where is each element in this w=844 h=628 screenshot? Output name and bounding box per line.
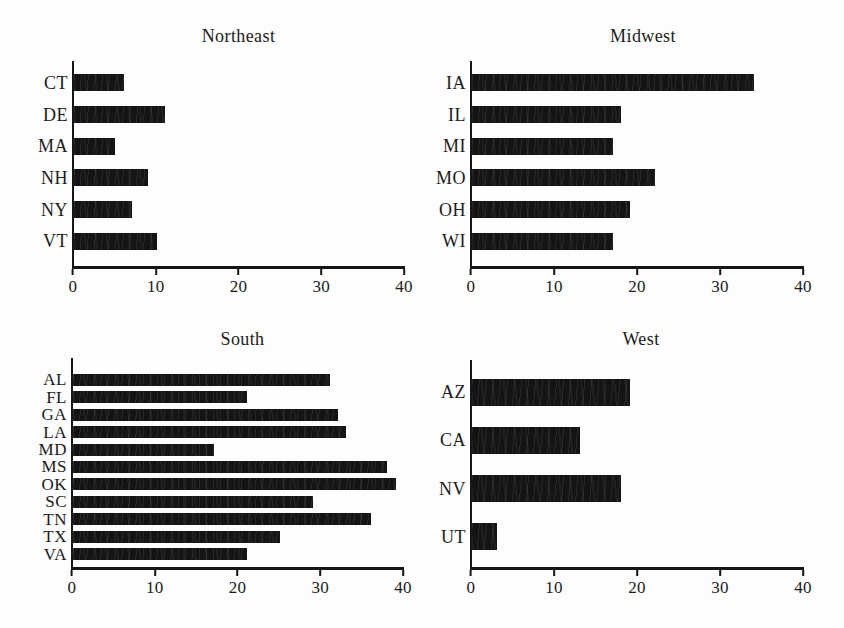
bar-nv — [472, 475, 621, 502]
tick-label: 40 — [794, 278, 812, 295]
bar-row-mi: MI — [472, 130, 804, 162]
category-label-al: AL — [43, 371, 67, 388]
bar-row-tn: TN — [73, 511, 404, 528]
category-label-ct: CT — [44, 74, 68, 92]
tick-mark — [403, 269, 405, 275]
bar-row-az: AZ — [472, 368, 804, 416]
tick-label: 20 — [628, 579, 646, 596]
bar-row-ca: CA — [472, 416, 804, 464]
tick-mark — [72, 269, 74, 275]
bar-ma — [74, 138, 115, 155]
x-tick-0: 0 — [467, 570, 476, 596]
x-tick-30: 30 — [711, 269, 729, 295]
bar-row-tx: TX — [73, 528, 404, 545]
bar-mo — [472, 169, 655, 186]
tick-mark — [802, 570, 804, 576]
tick-mark — [320, 269, 322, 275]
category-label-ia: IA — [446, 74, 466, 92]
bar-row-ga: GA — [73, 406, 404, 423]
tick-label: 30 — [311, 579, 329, 596]
x-tick-10: 10 — [146, 570, 164, 596]
tick-mark — [802, 269, 804, 275]
bar-nh — [74, 169, 148, 186]
category-label-nv: NV — [439, 480, 466, 498]
chart-title-northeast: Northeast — [72, 27, 405, 45]
bar-wi — [472, 233, 613, 250]
bar-row-wi: WI — [472, 225, 804, 257]
tick-label: 30 — [711, 579, 729, 596]
bar-ny — [74, 201, 132, 218]
chart-panel-south: South ALFLGALAMDMSOKSCTNTXVA 010203040 — [0, 0, 844, 628]
tick-mark — [237, 269, 239, 275]
category-label-oh: OH — [439, 201, 466, 219]
bar-ut — [472, 523, 497, 550]
category-label-ga: GA — [41, 406, 67, 423]
tick-mark — [155, 269, 157, 275]
x-tick-40: 40 — [394, 570, 412, 596]
category-label-tn: TN — [43, 511, 67, 528]
category-label-mi: MI — [443, 137, 466, 155]
bar-al — [73, 374, 330, 386]
x-tick-20: 20 — [230, 269, 248, 295]
bar-tx — [73, 531, 280, 543]
plot-area-south: ALFLGALAMDMSOKSCTNTXVA — [71, 358, 404, 570]
tick-mark — [154, 570, 156, 576]
category-label-vt: VT — [43, 232, 68, 250]
bar-row-ny: NY — [74, 194, 405, 226]
bar-row-md: MD — [73, 441, 404, 458]
category-label-sc: SC — [45, 493, 67, 510]
category-label-ma: MA — [38, 137, 68, 155]
bar-row-ia: IA — [472, 67, 804, 99]
category-label-md: MD — [39, 441, 67, 458]
bar-ok — [73, 478, 396, 490]
tick-label: 0 — [69, 278, 78, 295]
tick-mark — [553, 269, 555, 275]
bar-row-fl: FL — [73, 388, 404, 405]
tick-mark — [719, 570, 721, 576]
bar-va — [73, 548, 247, 560]
bar-row-al: AL — [73, 371, 404, 388]
bar-fl — [73, 391, 247, 403]
chart-panel-northeast: Northeast CTDEMANHNYVT 010203040 — [0, 0, 844, 628]
plot-area-midwest: IAILMIMOOHWI — [470, 61, 804, 269]
category-label-de: DE — [43, 106, 68, 124]
tick-label: 10 — [147, 278, 165, 295]
bar-mi — [472, 138, 613, 155]
category-label-ok: OK — [41, 476, 67, 493]
tick-label: 30 — [312, 278, 330, 295]
plot-area-northeast: CTDEMANHNYVT — [72, 61, 405, 269]
bar-row-ok: OK — [73, 476, 404, 493]
category-label-az: AZ — [441, 383, 466, 401]
tick-mark — [636, 570, 638, 576]
x-tick-30: 30 — [711, 570, 729, 596]
tick-label: 40 — [395, 278, 413, 295]
category-label-mo: MO — [436, 169, 466, 187]
x-tick-20: 20 — [229, 570, 247, 596]
chart-title-west: West — [474, 330, 808, 348]
bar-ct — [74, 74, 124, 91]
bar-row-ut: UT — [472, 513, 804, 561]
tick-mark — [71, 570, 73, 576]
tick-label: 0 — [467, 579, 476, 596]
chart-title-midwest: Midwest — [476, 27, 810, 45]
category-label-ca: CA — [440, 431, 466, 449]
x-tick-30: 30 — [311, 570, 329, 596]
bar-row-nh: NH — [74, 162, 405, 194]
bar-row-mo: MO — [472, 162, 804, 194]
x-tick-0: 0 — [68, 570, 77, 596]
bar-tn — [73, 513, 371, 525]
category-label-wi: WI — [442, 232, 466, 250]
bar-row-va: VA — [73, 546, 404, 563]
x-tick-20: 20 — [628, 269, 646, 295]
bar-row-sc: SC — [73, 493, 404, 510]
x-tick-10: 10 — [545, 269, 563, 295]
category-label-il: IL — [448, 106, 466, 124]
x-axis-midwest: 010203040 — [471, 269, 803, 301]
chart-panel-midwest: Midwest IAILMIMOOHWI 010203040 — [0, 0, 844, 628]
x-tick-10: 10 — [147, 269, 165, 295]
tick-label: 30 — [711, 278, 729, 295]
x-axis-northeast: 010203040 — [73, 269, 404, 301]
tick-mark — [553, 570, 555, 576]
tick-label: 0 — [68, 579, 77, 596]
tick-mark — [402, 570, 404, 576]
